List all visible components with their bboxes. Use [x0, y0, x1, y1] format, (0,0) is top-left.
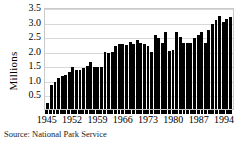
- bar: [189, 43, 192, 109]
- bar: [79, 70, 82, 109]
- bar: [100, 67, 103, 109]
- y-tick-label: 2.5: [29, 32, 42, 42]
- y-tick-label: 3.0: [29, 18, 42, 28]
- x-tick-label: 1994: [214, 114, 234, 126]
- x-tick-label: 1966: [113, 114, 133, 126]
- bar: [179, 37, 182, 109]
- bar: [172, 50, 175, 109]
- y-tick-label: 1.0: [29, 76, 42, 86]
- bar: [168, 51, 171, 109]
- bar: [215, 20, 218, 109]
- bar: [46, 103, 49, 109]
- y-axis-title-text: Millions: [7, 52, 19, 91]
- source-note: Source: National Park Service: [4, 129, 107, 140]
- bar: [157, 38, 160, 109]
- bar: [143, 44, 146, 109]
- bar: [222, 22, 225, 109]
- bar: [118, 44, 121, 109]
- bar: [175, 32, 178, 109]
- bar: [164, 32, 167, 109]
- bar: [96, 67, 99, 109]
- bar: [193, 38, 196, 109]
- bar: [86, 66, 89, 109]
- bar: [211, 24, 214, 109]
- bar: [61, 76, 64, 110]
- y-tick-label: 2.0: [29, 47, 42, 57]
- y-axis-tick-labels: 0.51.01.52.02.53.03.5: [20, 8, 42, 110]
- bar: [229, 17, 232, 109]
- bar: [218, 16, 221, 109]
- bar: [82, 68, 85, 109]
- x-tick-label: 1952: [62, 114, 82, 126]
- bar: [111, 52, 114, 109]
- bar: [182, 43, 185, 109]
- bar: [104, 52, 107, 109]
- plot-area: [44, 8, 234, 110]
- bar: [121, 44, 124, 109]
- y-axis-title: Millions: [6, 36, 20, 106]
- chart-figure: Millions 0.51.01.52.02.53.03.5 194519521…: [0, 0, 242, 143]
- bar: [125, 45, 128, 109]
- bar: [150, 52, 153, 109]
- bar: [161, 43, 164, 109]
- bar: [75, 70, 78, 109]
- bar-series: [45, 9, 233, 109]
- bar: [93, 67, 96, 109]
- bar: [207, 30, 210, 109]
- x-axis-tick-labels: 19451952195919661973198019871994: [44, 114, 234, 128]
- bar: [89, 62, 92, 109]
- bar: [71, 67, 74, 109]
- bar: [68, 72, 71, 109]
- bar: [154, 35, 157, 109]
- bar: [129, 42, 132, 109]
- bar: [50, 85, 53, 109]
- bar: [139, 43, 142, 109]
- x-tick-label: 1945: [37, 114, 57, 126]
- x-tick-label: 1973: [138, 114, 158, 126]
- bar: [57, 78, 60, 109]
- y-tick-label: 1.5: [29, 61, 42, 71]
- bar: [204, 43, 207, 109]
- bar: [225, 19, 228, 109]
- bar: [114, 46, 117, 109]
- bar: [147, 46, 150, 109]
- bar: [197, 35, 200, 109]
- bar: [200, 32, 203, 109]
- bar: [186, 43, 189, 109]
- bar: [132, 44, 135, 109]
- x-tick-label: 1980: [163, 114, 183, 126]
- bar: [64, 75, 67, 109]
- y-tick-label: 0.5: [29, 90, 42, 100]
- x-tick-label: 1987: [189, 114, 209, 126]
- x-tick-label: 1959: [87, 114, 107, 126]
- bar: [107, 53, 110, 109]
- y-tick-label: 3.5: [29, 3, 42, 13]
- bar: [54, 82, 57, 109]
- bar: [136, 40, 139, 109]
